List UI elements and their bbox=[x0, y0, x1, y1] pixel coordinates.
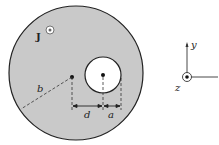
current-out-of-page-icon bbox=[46, 26, 54, 34]
z-axis-label: z bbox=[174, 82, 181, 93]
conductor-cross-section bbox=[9, 6, 143, 140]
offset-d-label: d bbox=[84, 109, 90, 120]
radius-b-label: b bbox=[37, 83, 43, 94]
hole-radius-a-label: a bbox=[108, 109, 114, 120]
conductor-diagram: J b d a y z bbox=[0, 0, 218, 145]
y-axis-label: y bbox=[190, 39, 197, 50]
current-density-label: J bbox=[35, 31, 41, 42]
coordinate-axes bbox=[183, 42, 219, 82]
hole-center-point bbox=[101, 73, 105, 77]
